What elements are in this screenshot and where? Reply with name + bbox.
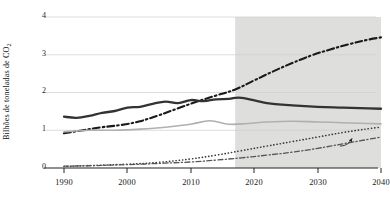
co2-emissions-chart: Bilhões de toneladas de CO2 4 3 2 1 0 19… bbox=[0, 0, 390, 197]
plot-area bbox=[0, 0, 390, 197]
x-axis-ticks bbox=[64, 168, 381, 173]
